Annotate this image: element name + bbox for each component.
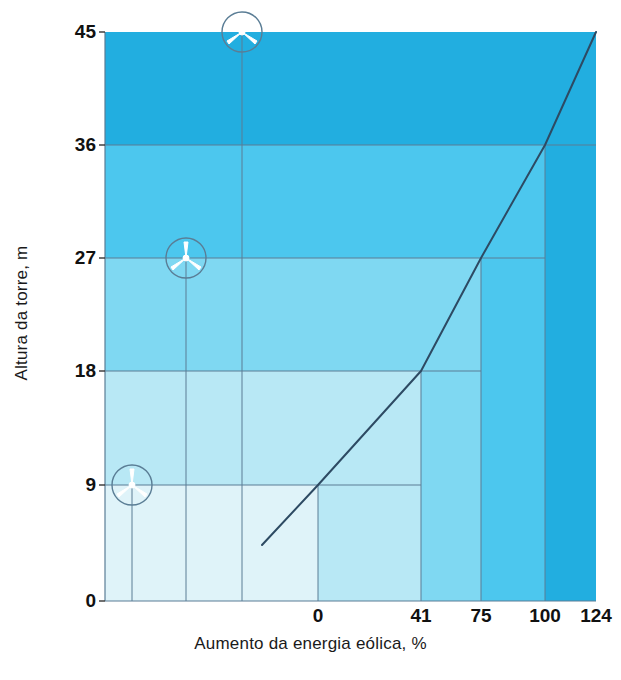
y-tick-label-9: 9 bbox=[50, 475, 96, 494]
y-tick-label-18: 18 bbox=[50, 361, 96, 380]
x-axis-title: Aumento da energia eólica, % bbox=[0, 634, 621, 654]
wind-turbine-height-power-chart: 45 36 27 18 9 0 0 41 75 100 124 Altura d… bbox=[0, 0, 621, 680]
x-tick-label-124: 124 bbox=[566, 606, 621, 625]
x-tick-label-75: 75 bbox=[451, 606, 511, 625]
y-tick-label-0: 0 bbox=[50, 591, 96, 610]
band-9-rect bbox=[105, 485, 318, 601]
y-tick-label-45: 45 bbox=[50, 22, 96, 41]
y-tick-label-36: 36 bbox=[50, 135, 96, 154]
x-tick-label-0: 0 bbox=[288, 606, 348, 625]
y-axis-title: Altura da torre, m bbox=[12, 143, 32, 483]
x-tick-label-41: 41 bbox=[391, 606, 451, 625]
y-tick-label-27: 27 bbox=[50, 248, 96, 267]
